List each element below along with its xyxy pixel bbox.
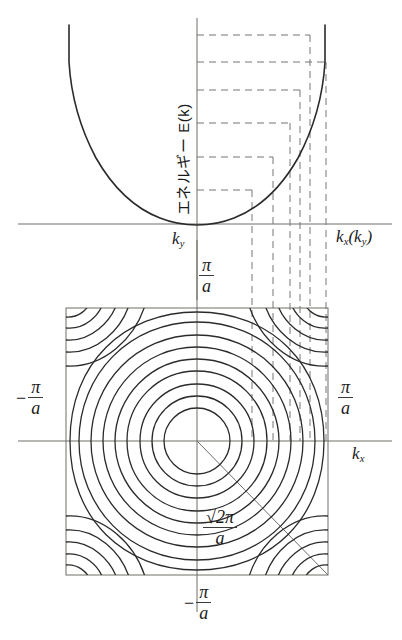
right-pi-denominator: a (338, 399, 353, 417)
contour-line (66, 516, 146, 580)
contour-line (290, 300, 328, 328)
energy-level-dashed-lines (197, 35, 326, 190)
bottom-fraction: π a (196, 583, 211, 623)
kx-axis-label: kx (352, 445, 364, 465)
sqrt2-pi-denominator: a (212, 529, 227, 547)
upper-kx-label: kx(ky) (336, 228, 372, 248)
upper-kx-paren-open: (k (348, 227, 361, 246)
top-pi-numerator: π (199, 256, 214, 274)
left-neg-pi-over-a-label: − π a (16, 378, 43, 418)
contour-line (248, 516, 328, 580)
bottom-minus-sign: − (184, 594, 194, 612)
left-fraction: π a (28, 378, 43, 418)
right-pi-numerator: π (338, 378, 353, 396)
right-pi-over-a-label: π a (338, 378, 353, 418)
contour-line (303, 300, 328, 317)
left-pi-denominator: a (28, 399, 43, 417)
bottom-neg-pi-over-a-label: − π a (184, 583, 211, 623)
figure-canvas (0, 0, 402, 640)
upper-kx-paren-close: ) (367, 227, 373, 246)
physics-figure: エネルギー E(k) ky kx(ky) π a − π a π a kx √2… (0, 0, 402, 640)
contour-line (248, 302, 328, 366)
upper-ky-symbol: k (172, 229, 180, 248)
energy-axis-label-text: エネルギー E(k) (175, 103, 192, 215)
upper-kx-symbol: k (336, 227, 344, 246)
top-pi-over-a-label: π a (199, 256, 214, 296)
upper-ky-subscript: y (180, 238, 185, 249)
bottom-pi-denominator: a (196, 604, 211, 622)
upper-ky-label: ky (172, 230, 184, 250)
contour-line (66, 554, 104, 582)
kx-symbol: k (352, 444, 360, 463)
kx-subscript: x (360, 453, 365, 464)
contour-line (66, 300, 91, 317)
energy-axis-label: エネルギー E(k) (172, 103, 193, 215)
left-pi-numerator: π (28, 378, 43, 396)
contour-line (66, 565, 91, 582)
contour-line (303, 565, 328, 582)
bottom-pi-numerator: π (196, 583, 211, 601)
contour-line (290, 554, 328, 582)
sqrt2-pi-over-a-label: √2π a (203, 508, 237, 548)
contour-line (66, 302, 146, 366)
contour-line (66, 300, 104, 328)
left-minus-sign: − (16, 389, 26, 407)
top-pi-denominator: a (199, 277, 214, 295)
sqrt2-pi-numerator: √2π (203, 508, 237, 526)
projection-dashed-lines (252, 35, 326, 441)
